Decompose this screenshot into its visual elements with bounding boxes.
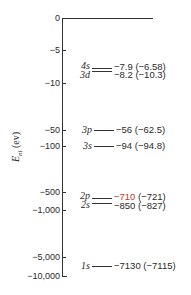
tick-minus-5000: [62, 257, 66, 258]
zero-level-line: [62, 18, 153, 19]
tick-label: −50: [45, 125, 60, 135]
tick-0: [62, 18, 66, 19]
tick-label: −5: [50, 45, 60, 55]
level-line-2s: [92, 203, 112, 204]
tick-minus-100: [62, 146, 66, 147]
level-name-2s: 2s: [74, 200, 90, 210]
tick-label: −100: [40, 141, 60, 151]
y-axis-line: [62, 18, 63, 277]
level-line-2p: [92, 198, 112, 199]
tick-minus-1000: [62, 210, 66, 211]
level-value-1s: −7130 (−7115): [114, 261, 176, 271]
y-axis-foot: [62, 276, 67, 277]
tick-minus-500: [62, 192, 66, 193]
level-value-3s: −94 (−94.8): [116, 141, 165, 151]
tick-label: −10,000: [27, 271, 60, 281]
level-value-3p: −56 (−62.5): [116, 125, 165, 135]
level-line-3s: [94, 146, 114, 147]
level-line-4s: [92, 68, 112, 69]
y-axis-label: Enl (ev): [10, 122, 24, 172]
y-axis-unit: (ev): [10, 132, 21, 148]
tick-label: −500: [40, 187, 60, 197]
level-name-3p: 3p: [76, 125, 92, 135]
level-value-2s: −850 (−827): [114, 201, 166, 211]
tick-label: −10: [45, 78, 60, 88]
tick-label: −5,000: [32, 252, 60, 262]
y-axis-subscript: nl: [16, 151, 24, 156]
level-name-3s: 3s: [76, 141, 92, 151]
level-line-1s: [92, 266, 112, 267]
level-name-1s: 1s: [76, 261, 90, 271]
level-line-3p: [94, 130, 114, 131]
tick-minus-5: [62, 50, 66, 51]
y-axis-symbol: E: [10, 156, 21, 162]
tick-minus-10: [62, 83, 66, 84]
level-name-3d: 3d: [72, 70, 90, 80]
tick-minus-50: [62, 130, 66, 131]
level-value-3d: −8.2 (−10.3): [114, 70, 166, 80]
level-line-3d: [92, 71, 112, 72]
tick-label: −1,000: [32, 205, 60, 215]
tick-label: 0: [55, 13, 60, 23]
